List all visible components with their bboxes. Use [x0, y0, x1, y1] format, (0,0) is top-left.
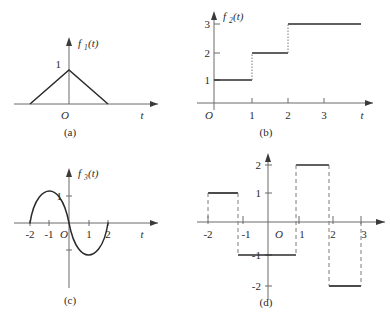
panel-c-caption: (c): [50, 294, 90, 306]
panel-d-ytick-1: 1: [256, 187, 262, 199]
panel-b-ytick-2: 2: [205, 47, 211, 59]
panel-d-origin-label: O: [275, 228, 283, 240]
panel-b-ytick-1: 1: [205, 74, 211, 86]
panel-c-origin-label: O: [60, 228, 68, 240]
panel-d: 2 1 -1 -2 -2 -1 1 2 3: [195, 150, 390, 326]
panel-a-function-label: f 1 (t): [78, 37, 99, 52]
panel-a-x-axis: [14, 101, 158, 107]
panel-d-xtick--2: -2: [203, 228, 212, 240]
panel-c-xtick--2: -2: [25, 228, 34, 240]
svg-text:(t): (t): [233, 10, 244, 23]
panel-c: 1 -2 -1 1 2 O t f 3 (t): [0, 163, 195, 326]
panel-d-jump-lines: [208, 165, 361, 286]
panel-d-xtick-1: 1: [299, 228, 305, 240]
panel-b-caption: (b): [246, 126, 286, 138]
panel-b-x-axis-label: t: [360, 109, 364, 121]
panel-c-function-label: f 3 (t): [78, 167, 99, 182]
panel-c-x-axis: [14, 220, 158, 226]
panel-d-x-axis: [197, 219, 385, 225]
panel-a-ytick-1: 1: [56, 58, 62, 70]
panel-d-caption: (d): [246, 296, 286, 308]
panel-c-xtick--1: -1: [44, 228, 53, 240]
panel-b-origin-label: O: [205, 109, 213, 121]
panel-c-xtick-1: 1: [86, 228, 92, 240]
panel-b: 1 2 3 1 2 3 O: [195, 0, 390, 163]
panel-b-risers: [252, 24, 288, 80]
panel-a: 1 O t f 1 (t): [0, 0, 195, 163]
panel-d-xtick--1: -1: [241, 228, 250, 240]
panel-b-xtick-2: 2: [285, 109, 291, 121]
panel-d-ytick--2: -2: [252, 280, 261, 292]
panel-d-waveform: [208, 165, 361, 286]
panel-d-x-ticks: [208, 216, 361, 224]
svg-text:f: f: [223, 10, 228, 22]
panel-a-origin-label: O: [61, 109, 69, 121]
panel-c-x-axis-label: t: [140, 228, 144, 240]
panel-b-function-label: f 2 (t): [223, 10, 244, 25]
panel-b-xtick-3: 3: [321, 109, 327, 121]
svg-text:(t): (t): [88, 37, 99, 50]
panel-b-x-ticks: [252, 98, 324, 103]
multi-panel-waveform-figure: 1 O t f 1 (t) (a): [0, 0, 390, 326]
svg-text:f: f: [78, 167, 83, 179]
svg-text:(t): (t): [88, 167, 99, 180]
panel-b-x-axis: [197, 100, 373, 106]
panel-d-ytick-2: 2: [256, 159, 262, 171]
panel-d-y-axis: [265, 153, 271, 300]
panel-b-xtick-1: 1: [249, 109, 255, 121]
panel-b-y-axis: [211, 11, 217, 110]
panel-a-caption: (a): [50, 126, 90, 138]
svg-text:f: f: [78, 37, 83, 49]
panel-b-y-ticks: [214, 24, 220, 80]
panel-b-ytick-3: 3: [205, 18, 211, 30]
panel-d-xtick-2: 2: [330, 228, 336, 240]
panel-a-x-axis-label: t: [140, 109, 144, 121]
panel-d-xtick-3: 3: [361, 228, 367, 240]
